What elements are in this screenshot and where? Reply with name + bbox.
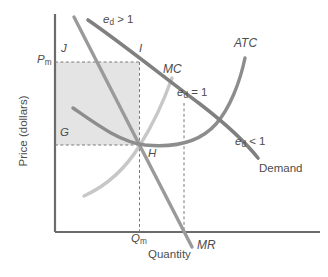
y-axis-label: Price (dollars)	[17, 86, 29, 176]
figure-canvas: Pm Qm Quantity Price (dollars) J I G H M…	[0, 0, 328, 277]
curve-label-mc: MC	[163, 62, 182, 76]
diagram-svg	[0, 0, 328, 277]
annotation-unit-elastic: ed = 1	[177, 86, 208, 100]
pm-base: P	[37, 53, 45, 65]
elastic-tail: > 1	[114, 13, 134, 25]
unit-tail: = 1	[188, 86, 208, 98]
y-axis-tick-pm: Pm	[37, 53, 52, 67]
point-label-I: I	[139, 42, 142, 54]
x-axis-tick-qm: Qm	[131, 232, 147, 246]
pm-sub: m	[45, 58, 52, 67]
annotation-inelastic: ed < 1	[235, 135, 266, 149]
curve-label-mr: MR	[197, 238, 216, 252]
curve-label-atc: ATC	[234, 36, 257, 50]
point-label-J: J	[61, 42, 67, 54]
point-label-G: G	[60, 126, 69, 138]
annotation-elastic: ed > 1	[103, 13, 134, 27]
point-label-H: H	[148, 147, 156, 159]
qm-base: Q	[131, 232, 140, 244]
curve-label-demand: Demand	[259, 162, 302, 174]
qm-sub: m	[140, 237, 147, 246]
x-axis-label: Quantity	[148, 248, 191, 260]
inelastic-tail: < 1	[246, 135, 266, 147]
